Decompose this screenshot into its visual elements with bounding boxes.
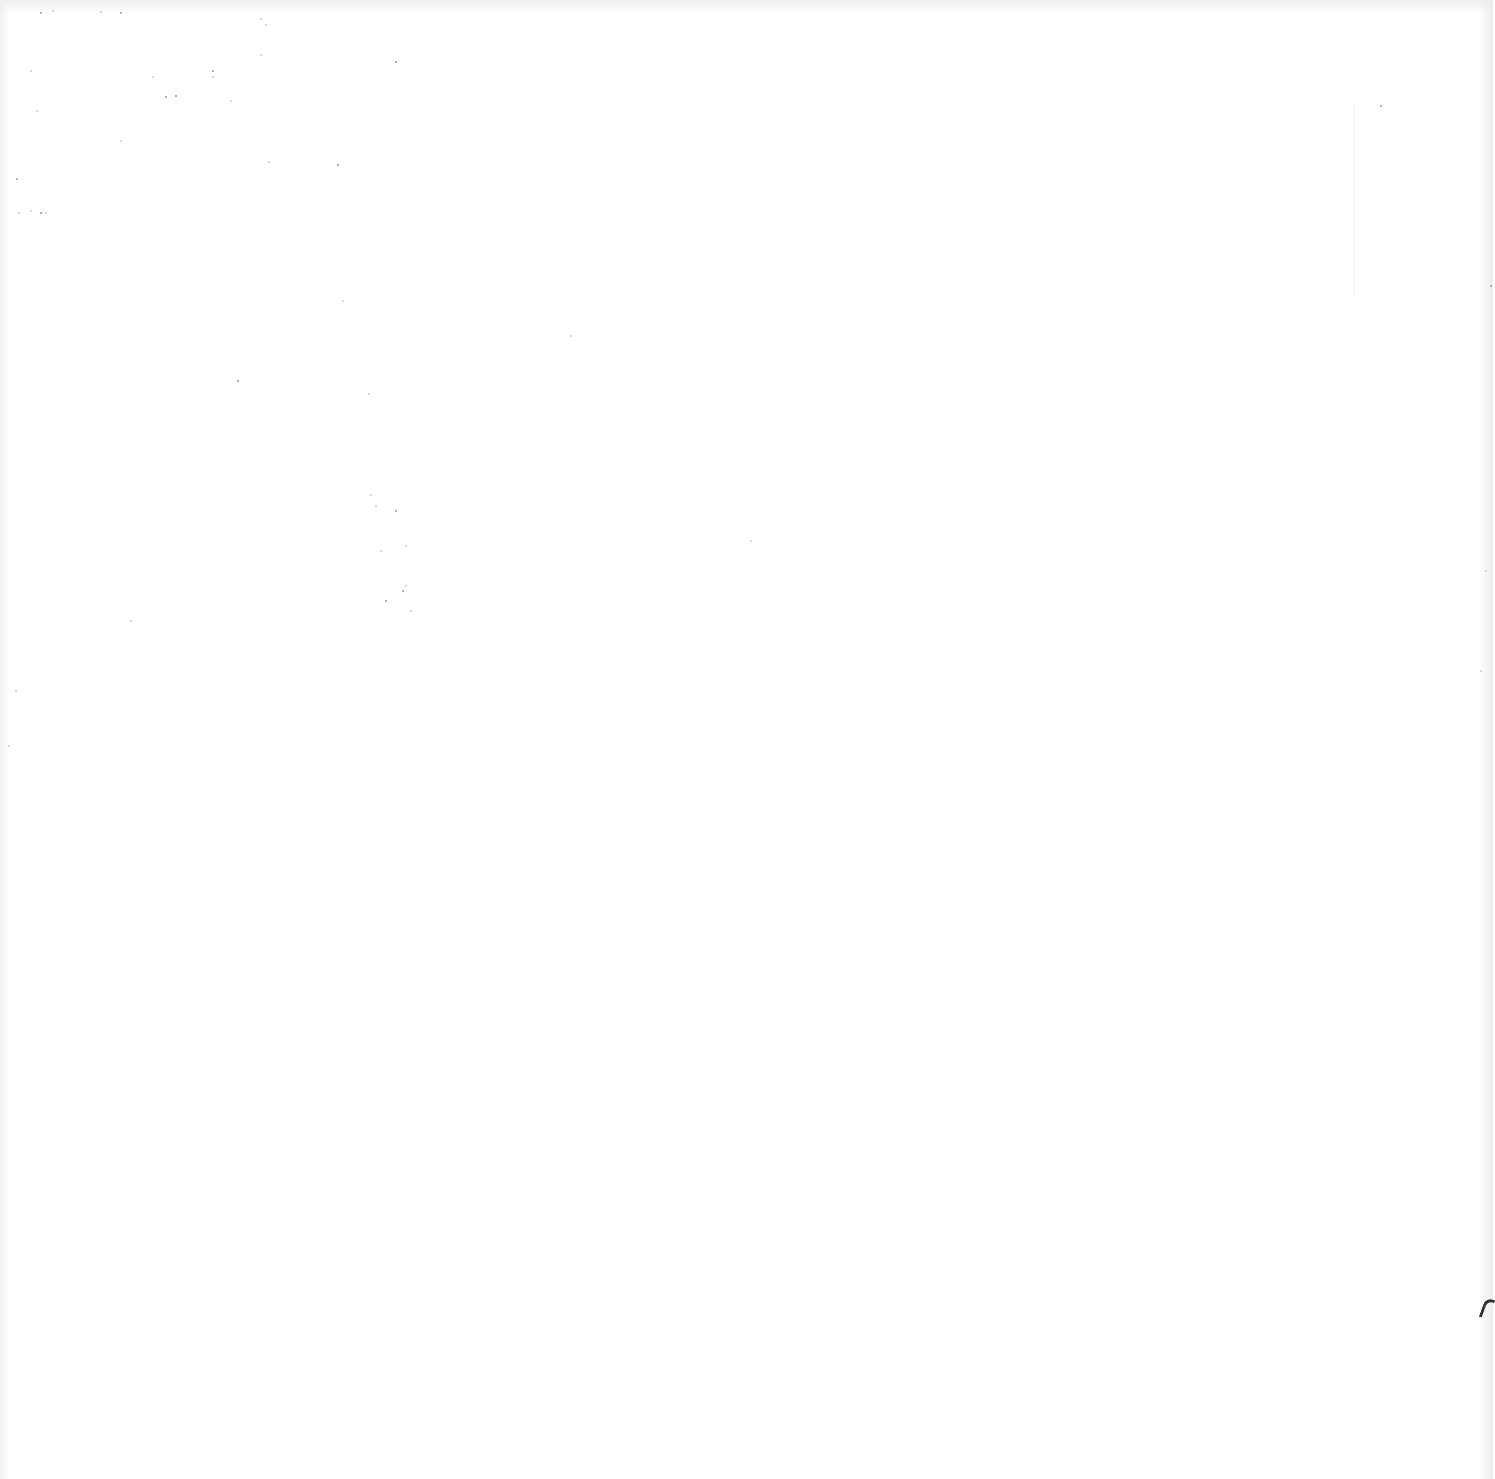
noise-speck bbox=[570, 335, 572, 337]
noise-speck bbox=[1380, 105, 1382, 107]
noise-speck bbox=[337, 164, 339, 166]
noise-speck bbox=[368, 393, 370, 395]
noise-speck bbox=[342, 300, 344, 302]
noise-speck bbox=[265, 24, 267, 26]
noise-speck bbox=[165, 96, 167, 98]
noise-speck bbox=[120, 12, 122, 14]
noise-speck bbox=[36, 110, 38, 112]
noise-speck bbox=[230, 100, 232, 102]
scan-edge-shadow-left bbox=[0, 0, 10, 1479]
noise-speck bbox=[8, 745, 10, 747]
noise-speck bbox=[385, 600, 387, 602]
noise-speck bbox=[260, 54, 262, 56]
noise-speck bbox=[1485, 570, 1487, 572]
noise-speck bbox=[45, 212, 47, 214]
noise-speck bbox=[410, 610, 412, 612]
noise-speck bbox=[175, 95, 177, 97]
noise-speck bbox=[237, 380, 239, 382]
noise-speck bbox=[1480, 670, 1482, 672]
noise-speck bbox=[16, 178, 18, 180]
noise-speck bbox=[380, 550, 382, 552]
scan-edge-shadow-right bbox=[1479, 0, 1493, 1479]
noise-speck bbox=[52, 10, 54, 12]
noise-speck bbox=[268, 161, 270, 163]
noise-speck bbox=[212, 76, 214, 78]
noise-speck bbox=[100, 11, 102, 13]
noise-speck bbox=[120, 140, 122, 142]
scan-edge-shadow-top bbox=[0, 0, 1493, 14]
noise-speck bbox=[402, 590, 404, 592]
noise-speck bbox=[40, 212, 42, 214]
noise-speck bbox=[152, 76, 154, 78]
noise-speck bbox=[395, 510, 397, 512]
noise-speck bbox=[1490, 285, 1492, 287]
noise-speck bbox=[405, 585, 407, 587]
noise-speck bbox=[405, 545, 407, 547]
faint-scan-line bbox=[1354, 105, 1355, 295]
noise-speck bbox=[370, 494, 372, 496]
noise-speck bbox=[750, 540, 752, 542]
noise-speck bbox=[18, 212, 20, 214]
noise-speck bbox=[15, 690, 17, 692]
noise-speck bbox=[212, 70, 214, 72]
noise-speck bbox=[375, 505, 377, 507]
noise-speck bbox=[395, 61, 397, 63]
noise-speck bbox=[130, 620, 132, 622]
noise-speck bbox=[260, 18, 262, 20]
noise-speck bbox=[30, 70, 32, 72]
noise-speck bbox=[30, 210, 32, 212]
noise-speck bbox=[40, 12, 42, 14]
